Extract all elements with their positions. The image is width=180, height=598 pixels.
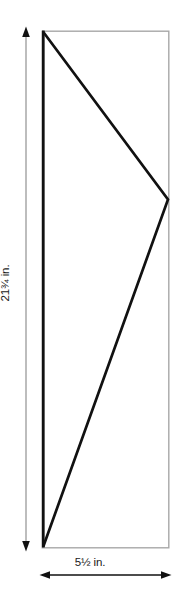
vertical-dimension-line bbox=[22, 27, 30, 552]
dimension-diagram bbox=[0, 0, 180, 598]
vertical-dimension-label: 21¾ in. bbox=[0, 264, 12, 301]
vertical-dimension-arrow-bottom bbox=[22, 541, 30, 552]
horizontal-dimension-label: 5½ in. bbox=[0, 557, 180, 569]
horizontal-dimension-arrow-right bbox=[161, 571, 172, 579]
bounding-rectangle bbox=[42, 31, 169, 548]
zigzag-fold-line bbox=[43, 32, 168, 547]
vertical-dimension-arrow-top bbox=[22, 27, 30, 38]
horizontal-dimension-arrow-left bbox=[40, 571, 51, 579]
horizontal-dimension-line bbox=[40, 571, 172, 579]
figure-root: 21¾ in. 5½ in. bbox=[0, 0, 180, 598]
